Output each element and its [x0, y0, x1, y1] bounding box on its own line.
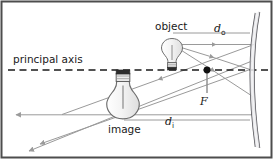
object-bulb-contact: [168, 67, 177, 70]
focal-point-label: F: [200, 96, 208, 107]
object-distance-label: do: [214, 23, 226, 37]
principal-axis-label: principal axis: [13, 54, 83, 65]
focal-point-dot: [204, 67, 211, 74]
ray-diagram-figure: principal axis object image do di F: [0, 0, 273, 159]
diagram-canvas: [0, 0, 273, 159]
image-distance-symbol: d: [165, 115, 172, 128]
image-bulb-base: [116, 73, 130, 81]
object-label: object: [155, 21, 187, 32]
image-distance-subscript: i: [172, 121, 174, 130]
image-bulb-contact: [116, 70, 130, 74]
object-bulb-base: [168, 63, 177, 68]
image-label: image: [108, 124, 141, 135]
object-distance-subscript: o: [221, 28, 226, 37]
image-distance-label: di: [165, 116, 174, 130]
object-distance-symbol: d: [214, 22, 221, 35]
